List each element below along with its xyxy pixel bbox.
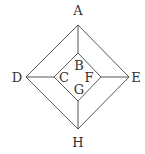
node-label-f: F <box>84 70 93 85</box>
node-label-h: H <box>72 135 83 150</box>
node-label-b: B <box>74 58 84 73</box>
node-label-e: E <box>131 70 141 85</box>
node-label-d: D <box>12 70 22 85</box>
nested-diamond-graph: ADEHBCFG <box>0 0 145 154</box>
node-label-c: C <box>59 70 69 85</box>
node-label-g: G <box>74 82 84 97</box>
node-label-a: A <box>72 3 83 18</box>
diagram-canvas: ADEHBCFG <box>0 0 145 154</box>
labels-group: ADEHBCFG <box>12 3 141 150</box>
edges-group <box>26 25 129 129</box>
edge-d-a <box>26 25 78 77</box>
edge-h-d <box>26 77 78 129</box>
